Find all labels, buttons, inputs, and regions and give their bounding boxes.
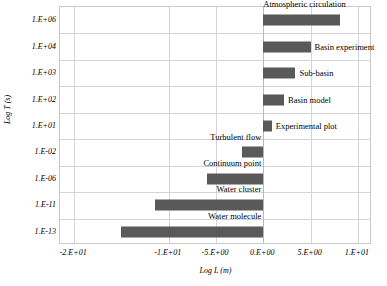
bar-label: Turbulent flow: [210, 132, 261, 142]
bar-label: Water molecule: [208, 211, 261, 221]
bar: [263, 41, 310, 52]
y-axis-tick-label: 1.E+03: [0, 68, 56, 77]
y-axis-tick-label: 1.E-11: [0, 200, 56, 209]
bar-label: Basin model: [288, 95, 331, 105]
bar-label: Basin experiment: [315, 42, 375, 52]
x-axis-title: Log L (m): [59, 266, 372, 275]
y-axis-tick-label: 1.E-13: [0, 226, 56, 235]
y-axis-tick-label: 1.E-02: [0, 147, 56, 156]
bar-label: Water cluster: [216, 184, 261, 194]
y-axis-tick-label: 1.E-06: [0, 173, 56, 182]
bar-label: Atmospheric circulation: [263, 0, 345, 9]
bar: [263, 121, 272, 132]
y-axis-tick-label: 1.E+06: [0, 15, 56, 24]
y-axis-title: Log T (s): [3, 75, 12, 145]
bar: [263, 94, 284, 105]
y-axis-tick-label: 1.E+01: [0, 121, 56, 130]
y-axis-tick-label: 1.E+04: [0, 41, 56, 50]
gridline-vertical: [74, 7, 75, 243]
bar-label: Sub-basin: [299, 68, 333, 78]
bar: [242, 147, 263, 158]
x-axis-tick-label: -2.E+01: [43, 248, 103, 257]
x-axis-tick-label: 1.E+01: [327, 248, 387, 257]
gridline-horizontal: [60, 33, 370, 34]
bar-label: Experimental plot: [276, 121, 337, 131]
bar: [263, 15, 340, 26]
plot-area: Atmospheric circulationBasin experimentS…: [59, 6, 371, 244]
gridline-horizontal: [60, 113, 370, 114]
chart-figure: Log T (s) Atmospheric circulationBasin e…: [0, 0, 387, 286]
gridline-horizontal: [60, 192, 370, 193]
gridline-horizontal: [60, 86, 370, 87]
bar: [155, 200, 264, 211]
y-axis-tick-label: 1.E+02: [0, 94, 56, 103]
bar: [121, 226, 263, 237]
bar: [207, 173, 264, 184]
bar-label: Continuum point: [203, 158, 261, 168]
gridline-horizontal: [60, 60, 370, 61]
bar: [263, 68, 295, 79]
